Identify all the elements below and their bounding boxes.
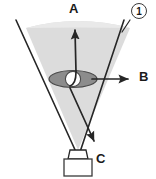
source-neck <box>68 150 88 159</box>
physics-beam-diagram: A B C 1 <box>0 0 156 179</box>
light-source-box <box>64 159 92 176</box>
figure-number-badge: 1 <box>131 3 147 19</box>
arrow-label-a: A <box>69 2 78 15</box>
arrow-label-c: C <box>96 152 105 165</box>
arrow-label-b: B <box>139 70 148 83</box>
diagram-canvas <box>0 0 156 179</box>
beam-top-arc-highlight <box>26 21 130 28</box>
